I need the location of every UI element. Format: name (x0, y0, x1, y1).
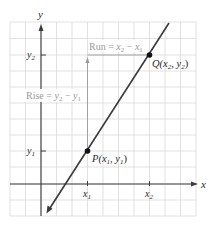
tick-marks (41, 55, 150, 186)
y-axis-arrow-icon (39, 24, 44, 31)
tick-label-y2: y2 (26, 49, 35, 62)
tick-label-x1: x1 (82, 188, 91, 201)
y-axis-label: y (37, 8, 43, 20)
point-q (147, 52, 153, 58)
point-q-label: Q(x2, y2) (152, 58, 189, 71)
x-axis-arrow-icon (191, 182, 198, 187)
tick-label-x2: x2 (144, 188, 153, 201)
point-p-label: P(x1, y1) (91, 153, 128, 166)
axes (10, 24, 198, 216)
tick-label-y1: y1 (26, 145, 35, 158)
point-p (85, 148, 91, 154)
x-axis-label: x (200, 178, 206, 190)
rise-arrow-icon (86, 57, 90, 63)
slope-diagram: y x y2 y1 x1 x2 Run = x2 − x1 Rise = y2 … (0, 0, 212, 229)
run-label: Run = x2 − x1 (89, 41, 143, 54)
